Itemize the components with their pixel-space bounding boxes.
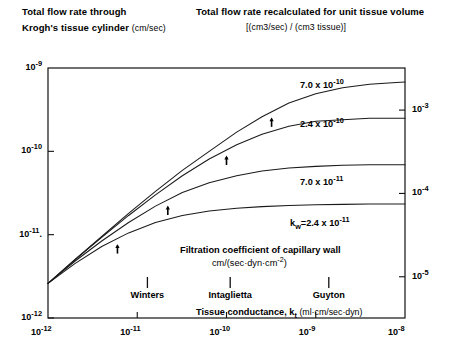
figure-root: Total flow rate through Krogh's tissue c…	[0, 0, 450, 362]
filtration-coefficient-units: cm/(sec·dyn·cm-2)	[212, 258, 287, 268]
curve-label: kw=2.4 x 10-11	[290, 218, 350, 228]
tissue-conductance-text: Tissue conductance,	[196, 307, 287, 317]
tissue-conductance-units: (ml·cm/sec·dyn)	[299, 307, 362, 317]
y-axis-left-tick-label: 10-12	[2, 312, 42, 322]
plot-frame	[48, 68, 405, 318]
curve-arrow-head	[115, 244, 119, 248]
curve-label: 7.0 x 10-11	[300, 177, 343, 187]
y-axis-right-tick-label: 10-4	[412, 187, 429, 197]
curve-arrow-markers	[115, 117, 273, 253]
tissue-conductance-symbol: kt	[289, 307, 299, 317]
x-axis-tick-label: 10-8	[388, 327, 405, 337]
curve-line	[48, 204, 405, 284]
curve-label: 2.4 x 10-10	[300, 119, 344, 129]
reference-marker-label: Intaglietta	[208, 290, 251, 300]
y-axis-left-tick-label: 10-10	[2, 145, 42, 155]
x-axis-tick-label: 10-12	[31, 327, 52, 337]
y-axis-right-tick-label: 10-3	[412, 104, 429, 114]
y-axis-right-tick-label: 10-5	[412, 271, 429, 281]
reference-marker-label: Winters	[131, 290, 165, 300]
curve-arrow-head	[166, 206, 170, 210]
filtration-coefficient-title: Filtration coefficient of capillary wall	[180, 245, 341, 255]
tissue-conductance-axis-label: Tissue conductance, kt (ml·cm/sec·dyn)	[196, 307, 362, 317]
axis-ticks-left	[48, 151, 54, 318]
curve-arrow-head	[269, 117, 273, 121]
x-axis-tick-label: 10-10	[210, 327, 231, 337]
y-axis-left-tick-label: 10-11.	[2, 229, 42, 239]
curve-label: 7.0 x 10-10	[300, 80, 344, 90]
x-axis-tick-label: 10-11	[120, 327, 140, 337]
reference-marker-label: Guyton	[313, 290, 345, 300]
curve-arrow-head	[224, 156, 228, 160]
y-axis-left-tick-label: 10-9	[2, 62, 42, 72]
reference-marker-ticks	[147, 277, 328, 288]
x-axis-tick-label: 10-9	[299, 327, 316, 337]
axis-ticks-right	[399, 110, 405, 277]
